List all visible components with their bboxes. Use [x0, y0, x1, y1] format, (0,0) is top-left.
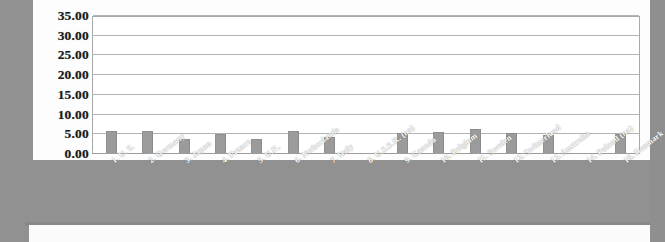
x-label-slot: 1. U. S.	[92, 156, 129, 216]
x-label-slot: 13. Australia	[530, 156, 567, 216]
x-label-slot: 4. France	[202, 156, 239, 216]
y-axis-tick-label: 25.00	[58, 47, 89, 63]
x-label-slot: 6. Netherlands	[275, 156, 312, 216]
y-axis-tick-label: 10.00	[58, 107, 89, 123]
bottom-strip	[29, 225, 650, 242]
bar[interactable]	[142, 131, 153, 154]
x-label-slot: 16. Denmark	[603, 156, 640, 216]
bar-slot	[275, 17, 311, 154]
y-axis-labels: 35.0030.0025.0020.0015.0010.005.000.00	[33, 10, 89, 160]
x-axis-labels: 1. U. S.2. Germany3. Japan4. France5. U.…	[92, 156, 640, 216]
bar-slot	[493, 17, 529, 154]
bar-slot	[202, 17, 238, 154]
y-axis-tick-label: 15.00	[58, 87, 89, 103]
bar-slot	[166, 17, 202, 154]
bar-slot	[421, 17, 457, 154]
gridline	[93, 15, 639, 16]
bar-slot	[239, 17, 275, 154]
y-axis-tick-label: 30.00	[58, 28, 89, 44]
bar-slot	[93, 17, 129, 154]
bar[interactable]	[215, 134, 226, 154]
x-label-slot: 12. Switzerland	[494, 156, 531, 216]
x-label-slot: 10. Belgium	[421, 156, 458, 216]
x-label-slot: 2. Germany	[129, 156, 166, 216]
y-axis-tick-label: 0.00	[65, 146, 89, 162]
x-label-slot: 11. Sweden	[457, 156, 494, 216]
x-label-slot: 5. U.K.	[238, 156, 275, 216]
x-label-slot: 3. Japan	[165, 156, 202, 216]
bar-slot	[348, 17, 384, 154]
bar-slot	[129, 17, 165, 154]
y-axis-tick-label: 20.00	[58, 67, 89, 83]
y-axis-tick-label: 35.00	[58, 8, 89, 24]
bar[interactable]	[106, 131, 117, 154]
x-label-slot: 14. Poland (na)	[567, 156, 604, 216]
bar[interactable]	[288, 131, 299, 154]
y-axis-tick-label: 5.00	[65, 126, 89, 142]
x-label-slot: 8. U.S.S.R. (na)	[348, 156, 385, 216]
x-label-slot: 7. Italy	[311, 156, 348, 216]
x-label-slot: 9. Canada	[384, 156, 421, 216]
